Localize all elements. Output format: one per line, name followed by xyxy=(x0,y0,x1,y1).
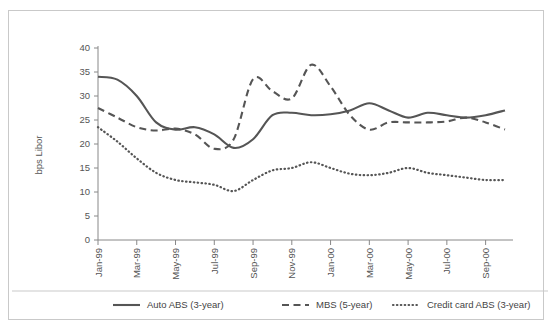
chart-frame xyxy=(8,10,544,320)
